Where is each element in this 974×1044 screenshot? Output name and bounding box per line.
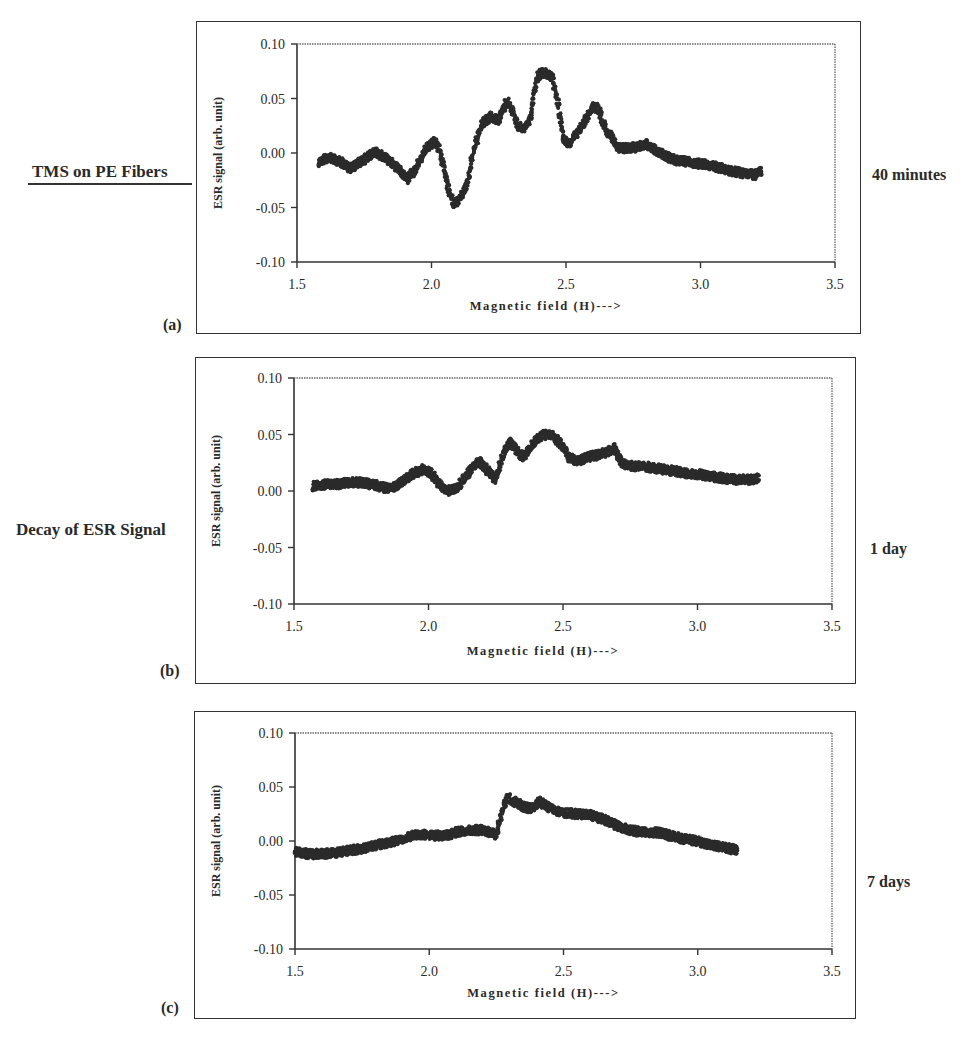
y-tick-label: 0.00 — [259, 834, 284, 849]
charts-svg: 0.100.050.00-0.05-0.101.52.02.53.03.5Mag… — [0, 0, 974, 1044]
x-tick-label: 3.5 — [826, 277, 844, 292]
y-tick-label: -0.05 — [256, 201, 285, 216]
x-tick-label: 2.0 — [423, 277, 441, 292]
x-tick-label: 2.5 — [555, 964, 573, 979]
y-tick-label: 0.05 — [259, 780, 284, 795]
scatter-points — [311, 429, 761, 498]
y-axis-title: ESR signal (arb. unit) — [209, 435, 223, 547]
y-tick-label: -0.10 — [254, 942, 283, 957]
y-tick-label: -0.05 — [253, 541, 282, 556]
x-tick-label: 2.5 — [557, 277, 575, 292]
y-tick-label: 0.10 — [258, 371, 283, 386]
x-tick-label: 3.0 — [689, 964, 707, 979]
scatter-points — [316, 67, 763, 209]
x-tick-label: 2.0 — [420, 619, 438, 634]
x-axis-title: Magnetic field (H)---> — [470, 299, 623, 313]
y-tick-label: 0.10 — [261, 37, 286, 52]
y-tick-label: 0.10 — [259, 726, 284, 741]
y-tick-label: 0.05 — [261, 92, 286, 107]
y-tick-label: -0.05 — [254, 888, 283, 903]
x-tick-label: 1.5 — [286, 964, 304, 979]
x-axis-title: Magnetic field (H)---> — [467, 644, 620, 658]
y-axis-title: ESR signal (arb. unit) — [209, 785, 223, 897]
x-tick-label: 3.0 — [689, 619, 707, 634]
y-tick-label: -0.10 — [256, 255, 285, 270]
x-tick-label: 1.5 — [288, 277, 306, 292]
x-tick-label: 3.5 — [823, 619, 841, 634]
x-tick-label: 2.5 — [554, 619, 572, 634]
chart-c: 0.100.050.00-0.05-0.101.52.02.53.03.5Mag… — [209, 726, 841, 1000]
y-tick-label: 0.00 — [261, 146, 286, 161]
y-axis-title: ESR signal (arb. unit) — [211, 97, 225, 209]
x-tick-label: 3.5 — [823, 964, 841, 979]
scatter-points — [293, 792, 740, 860]
x-axis-title: Magnetic field (H)---> — [467, 986, 620, 1000]
y-tick-label: 0.05 — [258, 428, 283, 443]
x-tick-label: 1.5 — [285, 619, 303, 634]
chart-b: 0.100.050.00-0.05-0.101.52.02.53.03.5Mag… — [209, 371, 841, 658]
chart-a: 0.100.050.00-0.05-0.101.52.02.53.03.5Mag… — [211, 37, 844, 313]
y-tick-label: 0.00 — [258, 484, 283, 499]
x-tick-label: 2.0 — [421, 964, 439, 979]
x-tick-label: 3.0 — [692, 277, 710, 292]
y-tick-label: -0.10 — [253, 597, 282, 612]
